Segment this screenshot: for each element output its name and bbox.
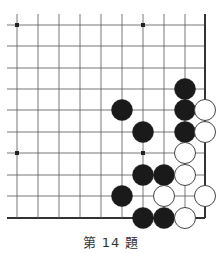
black-stone[interactable] bbox=[133, 165, 154, 186]
stones-layer bbox=[112, 79, 216, 229]
black-stone[interactable] bbox=[154, 208, 175, 229]
black-stone[interactable] bbox=[175, 122, 196, 143]
black-stone[interactable] bbox=[175, 79, 196, 100]
black-stone[interactable] bbox=[112, 100, 133, 121]
black-stone[interactable] bbox=[133, 208, 154, 229]
white-stone[interactable] bbox=[195, 122, 216, 143]
white-stone[interactable] bbox=[154, 186, 175, 207]
problem-caption: 第 14 題 bbox=[0, 232, 222, 251]
star-point bbox=[15, 23, 19, 27]
white-stone[interactable] bbox=[195, 100, 216, 121]
star-point bbox=[141, 151, 145, 155]
black-stone[interactable] bbox=[175, 100, 196, 121]
white-stone[interactable] bbox=[175, 165, 196, 186]
board-grid bbox=[7, 14, 205, 218]
star-point bbox=[141, 23, 145, 27]
black-stone[interactable] bbox=[112, 186, 133, 207]
white-stone[interactable] bbox=[195, 186, 216, 207]
black-stone[interactable] bbox=[154, 165, 175, 186]
black-stone[interactable] bbox=[133, 122, 154, 143]
white-stone[interactable] bbox=[175, 208, 196, 229]
go-board bbox=[0, 0, 222, 232]
white-stone[interactable] bbox=[175, 143, 196, 164]
star-point bbox=[15, 151, 19, 155]
